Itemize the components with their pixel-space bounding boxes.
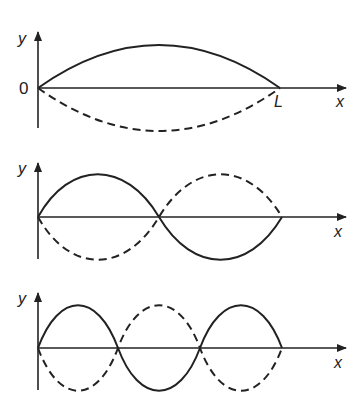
panel-harmonic-1: y 0 L x — [17, 30, 346, 131]
y-label: y — [17, 160, 27, 177]
x-label: x — [333, 223, 343, 240]
y-label: y — [17, 30, 27, 47]
length-label: L — [274, 93, 283, 110]
standing-wave-diagram: y 0 L x y x y x — [0, 0, 364, 408]
solid-wave — [38, 45, 280, 88]
panel-harmonic-3: y x — [17, 290, 346, 391]
x-label: x — [335, 93, 345, 110]
y-label: y — [17, 290, 27, 307]
x-label: x — [333, 354, 343, 371]
panel-harmonic-2: y x — [17, 160, 346, 260]
origin-label: 0 — [19, 79, 28, 98]
dashed-wave — [38, 88, 280, 131]
